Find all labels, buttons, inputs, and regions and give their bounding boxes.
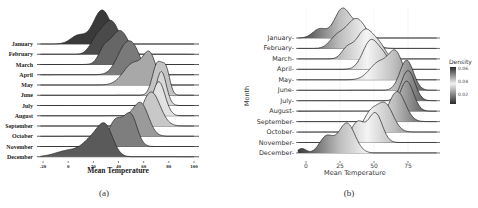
x-axis-label-a: Mean Temperature: [87, 166, 149, 175]
month-label: November-: [259, 139, 294, 147]
legend-tick: 0.02: [458, 92, 468, 97]
month-label: June: [21, 92, 34, 98]
month-label: July: [22, 103, 33, 109]
month-label: October: [12, 133, 33, 139]
month-label: June-: [277, 86, 294, 94]
ridgeline-figure: JanuaryFebruaryMarchAprilMayJuneJulyAugu…: [0, 0, 478, 208]
month-label: February-: [263, 44, 294, 52]
caption-a: (a): [99, 188, 109, 198]
month-label: August-: [269, 107, 294, 115]
month-label: December-: [259, 149, 294, 157]
x-tick-label: -20: [40, 164, 47, 169]
month-label: May-: [279, 76, 294, 84]
month-label: March-: [272, 55, 294, 63]
legend-colorbar: [450, 67, 456, 104]
month-label: August: [15, 113, 33, 119]
x-tick-label: 0: [304, 162, 308, 169]
month-label: April: [19, 72, 33, 78]
density-legend: Density 0.06 0.04 0.02: [449, 58, 472, 104]
x-tick-label: 80: [166, 164, 172, 169]
x-tick-label: 0: [67, 164, 70, 169]
x-tick-label: 50: [370, 162, 378, 169]
caption-b: (b): [344, 188, 355, 198]
chart-panel-b: January-February-March-April-May-June-Ju…: [257, 8, 440, 169]
x-tick-label: 25: [336, 162, 344, 169]
month-label: September-: [257, 118, 294, 126]
chart-panel-a: JanuaryFebruaryMarchAprilMayJuneJulyAugu…: [5, 10, 199, 169]
x-tick-label: 75: [404, 162, 412, 169]
x-tick-label: 100: [190, 164, 198, 169]
month-label: February: [9, 51, 33, 57]
month-label: January: [12, 41, 33, 47]
month-label: March: [16, 62, 34, 68]
legend-title: Density: [449, 58, 472, 66]
x-axis-label-b: Mean Temperature: [324, 169, 386, 177]
month-label: October-: [267, 128, 294, 136]
y-axis-label-b: Month: [243, 86, 251, 106]
month-label: November: [6, 144, 33, 150]
month-label: December: [7, 154, 33, 160]
month-label: May: [21, 82, 33, 88]
month-label: September: [5, 123, 33, 129]
month-label: April-: [277, 65, 294, 73]
month-label: January-: [267, 34, 294, 42]
legend-tick: 0.06: [458, 66, 468, 71]
legend-tick: 0.04: [458, 79, 468, 84]
month-label: July-: [279, 97, 294, 105]
